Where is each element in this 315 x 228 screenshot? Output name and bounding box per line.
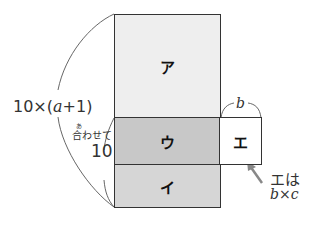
region-u-label: ウ xyxy=(160,131,175,152)
note-b: b xyxy=(270,186,279,202)
region-a: ア xyxy=(114,14,221,119)
total-brace-arc-top xyxy=(58,14,114,90)
width-var: b xyxy=(236,95,245,111)
combined-value: 10 xyxy=(91,141,113,161)
note-c: c xyxy=(291,186,299,202)
note-line2: b×c xyxy=(270,186,299,202)
width-brace-right xyxy=(248,103,261,118)
total-area-label: 10×(a+1) xyxy=(13,97,92,116)
total-suffix: +1) xyxy=(63,97,93,116)
region-e: エ xyxy=(219,117,262,165)
width-brace-left xyxy=(221,103,234,118)
region-u: ウ xyxy=(114,117,221,166)
total-var: a xyxy=(53,97,63,116)
total-prefix: 10×( xyxy=(13,97,53,116)
combined-text: 合わせて xyxy=(72,130,112,141)
combined-label: 合わせて xyxy=(72,127,112,142)
note-times: × xyxy=(279,186,291,202)
width-label: b xyxy=(236,95,245,111)
region-i: イ xyxy=(114,164,221,208)
region-i-label: イ xyxy=(160,176,175,197)
region-e-label: エ xyxy=(233,131,248,152)
region-a-label: ア xyxy=(160,56,175,77)
combined-value-text: 10 xyxy=(91,141,113,161)
